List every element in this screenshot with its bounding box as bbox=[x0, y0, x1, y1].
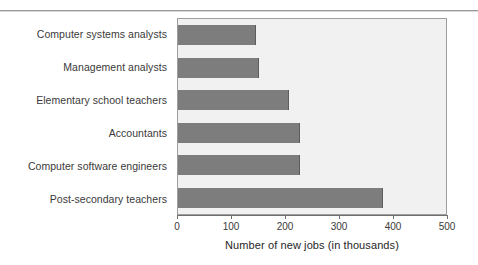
x-axis-tick bbox=[285, 215, 286, 219]
category-axis-labels: Computer systems analysts Management ana… bbox=[0, 18, 172, 215]
x-axis-tick-label: 200 bbox=[277, 221, 294, 232]
bar bbox=[178, 155, 300, 175]
top-divider-rule bbox=[0, 10, 478, 11]
category-label: Post-secondary teachers bbox=[50, 193, 172, 205]
bar-row bbox=[178, 58, 446, 78]
category-label: Accountants bbox=[109, 127, 172, 139]
x-axis-tick-label: 500 bbox=[439, 221, 456, 232]
bar bbox=[178, 90, 289, 110]
category-label: Computer software engineers bbox=[28, 160, 172, 172]
x-axis-tick-label: 0 bbox=[174, 221, 180, 232]
bar bbox=[178, 58, 259, 78]
x-axis-title: Number of new jobs (in thousands) bbox=[177, 239, 447, 251]
bar-row bbox=[178, 188, 446, 208]
plot-area bbox=[177, 18, 447, 215]
x-axis-tick bbox=[393, 215, 394, 219]
bar-row bbox=[178, 123, 446, 143]
bar-row bbox=[178, 90, 446, 110]
x-axis-tick-label: 300 bbox=[331, 221, 348, 232]
bars-layer bbox=[178, 19, 446, 214]
bar-row bbox=[178, 25, 446, 45]
x-axis-tick bbox=[447, 215, 448, 219]
category-label: Management analysts bbox=[63, 61, 172, 73]
bar-chart-figure: Computer systems analysts Management ana… bbox=[0, 0, 478, 265]
category-label: Elementary school teachers bbox=[36, 94, 172, 106]
bar-row bbox=[178, 155, 446, 175]
bar bbox=[178, 25, 256, 45]
category-label: Computer systems analysts bbox=[37, 28, 172, 40]
x-axis-tick-label: 100 bbox=[223, 221, 240, 232]
x-axis-tick-label: 400 bbox=[385, 221, 402, 232]
bar bbox=[178, 123, 300, 143]
x-axis-line bbox=[177, 215, 447, 216]
x-axis-tick bbox=[177, 215, 178, 219]
x-axis-tick bbox=[339, 215, 340, 219]
bar bbox=[178, 188, 383, 208]
x-axis-tick bbox=[231, 215, 232, 219]
